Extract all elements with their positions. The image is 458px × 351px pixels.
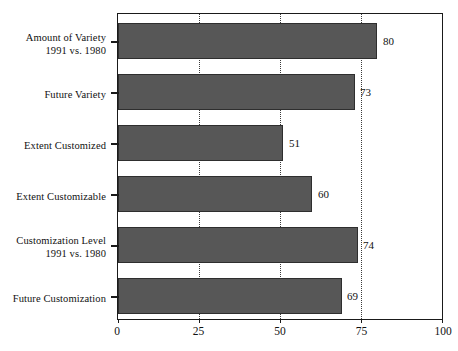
x-axis-tick-50 xyxy=(280,319,281,323)
bar-amount-of-variety xyxy=(118,23,377,59)
y-axis-tick-4 xyxy=(111,245,119,247)
x-axis-tick-100 xyxy=(442,319,443,323)
bar-future-variety xyxy=(118,74,355,110)
x-axis-label-50: 50 xyxy=(274,325,286,338)
x-axis-tick-75 xyxy=(361,319,362,323)
x-axis-label-100: 100 xyxy=(434,325,451,338)
x-axis-label-75: 75 xyxy=(356,325,368,338)
category-label-line1: Future Customization xyxy=(13,293,106,304)
category-axis-labels: Amount of Variety 1991 vs. 1980 Future V… xyxy=(0,13,106,320)
y-axis-tick-2 xyxy=(111,143,119,145)
category-label-line1: Customization Level xyxy=(16,235,106,246)
plot-inner xyxy=(118,14,442,319)
bar-value-amount-of-variety: 80 xyxy=(383,36,394,47)
bar-extent-customizable xyxy=(118,176,312,212)
category-label-line1: Extent Customizable xyxy=(16,191,106,202)
category-label-line2: 1991 vs. 1980 xyxy=(0,45,106,58)
bar-value-customization-level: 74 xyxy=(363,240,374,251)
y-axis-tick-3 xyxy=(111,194,119,196)
y-axis-tick-1 xyxy=(111,92,119,94)
category-label-amount-of-variety: Amount of Variety 1991 vs. 1980 xyxy=(0,32,106,57)
x-axis-tick-0 xyxy=(118,319,119,323)
category-label-customization-level: Customization Level 1991 vs. 1980 xyxy=(0,235,106,260)
bar-chart: Amount of Variety 1991 vs. 1980 Future V… xyxy=(0,0,458,351)
x-axis-label-0: 0 xyxy=(114,325,120,338)
category-label-future-customization: Future Customization xyxy=(0,293,106,306)
bar-value-future-variety: 73 xyxy=(360,87,371,98)
y-axis-tick-5 xyxy=(111,296,119,298)
category-label-extent-customizable: Extent Customizable xyxy=(0,191,106,204)
bar-customization-level xyxy=(118,227,358,263)
bar-extent-customized xyxy=(118,125,283,161)
plot-area xyxy=(117,13,443,320)
gridline-75 xyxy=(361,14,362,319)
x-axis-tick-25 xyxy=(199,319,200,323)
category-label-line1: Future Variety xyxy=(44,89,106,100)
category-label-future-variety: Future Variety xyxy=(0,89,106,102)
category-label-line1: Extent Customized xyxy=(24,140,106,151)
bar-future-customization xyxy=(118,278,342,314)
bar-value-future-customization: 69 xyxy=(347,291,358,302)
x-axis-label-25: 25 xyxy=(193,325,205,338)
category-label-line2: 1991 vs. 1980 xyxy=(0,248,106,261)
bar-value-extent-customized: 51 xyxy=(289,138,300,149)
y-axis-tick-0 xyxy=(111,41,119,43)
bar-value-extent-customizable: 60 xyxy=(318,189,329,200)
category-label-line1: Amount of Variety xyxy=(26,32,106,43)
gridline-25 xyxy=(199,14,200,319)
category-label-extent-customized: Extent Customized xyxy=(0,140,106,153)
gridline-50 xyxy=(280,14,281,319)
